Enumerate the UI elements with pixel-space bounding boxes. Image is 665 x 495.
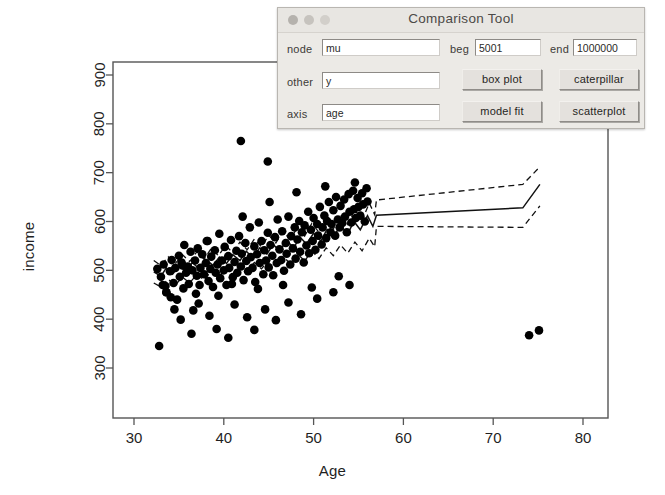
y-tick-label: 900 [91, 62, 108, 87]
model-fit-button[interactable]: model fit [462, 101, 542, 122]
y-tick-label: 300 [91, 355, 108, 380]
box-plot-button[interactable]: box plot [462, 69, 542, 90]
data-point [275, 245, 284, 254]
data-point [248, 264, 257, 273]
data-point [293, 235, 302, 244]
data-point [321, 182, 330, 191]
data-point [246, 223, 255, 232]
data-point [265, 198, 274, 207]
data-point [227, 236, 236, 245]
data-point [170, 305, 179, 314]
data-point [314, 231, 323, 240]
comparison-tool-window[interactable]: Comparison Tool node mu other y axis age… [277, 7, 645, 129]
data-point [349, 186, 358, 195]
data-point [351, 178, 360, 187]
data-point [184, 280, 193, 289]
data-point [167, 293, 176, 302]
data-point [264, 228, 273, 237]
data-point [299, 258, 308, 267]
data-point [271, 233, 280, 242]
data-point [157, 272, 166, 281]
data-point [525, 331, 534, 340]
data-point [193, 271, 202, 280]
data-point [214, 291, 223, 300]
data-point [228, 280, 237, 289]
data-point [216, 274, 225, 283]
data-point [209, 283, 218, 292]
data-point [178, 261, 187, 270]
data-point [535, 326, 544, 335]
window-title: Comparison Tool [278, 11, 644, 26]
data-point [167, 256, 176, 265]
data-point [224, 252, 233, 261]
data-point [169, 279, 178, 288]
data-point [189, 306, 198, 315]
data-point [296, 247, 305, 256]
data-point [268, 251, 277, 260]
data-point [343, 228, 352, 237]
y-axis-title: income [20, 197, 37, 297]
scatterplot-button[interactable]: scatterplot [559, 101, 639, 122]
data-point [360, 217, 369, 226]
data-point [239, 276, 248, 285]
data-point [255, 218, 264, 227]
data-point [191, 256, 200, 265]
data-point [243, 313, 252, 322]
data-point [194, 299, 203, 308]
data-point [235, 232, 244, 241]
data-point [250, 326, 259, 335]
x-axis-title: Age [0, 462, 665, 479]
caterpillar-button[interactable]: caterpillar [559, 69, 639, 90]
data-point [205, 311, 214, 320]
data-point [237, 249, 246, 258]
data-point [362, 184, 371, 193]
data-point [308, 283, 317, 292]
data-point [264, 157, 273, 166]
data-point [195, 281, 204, 290]
data-point [158, 281, 167, 290]
node-input[interactable]: mu [322, 39, 440, 56]
data-point [278, 227, 287, 236]
data-point [250, 242, 259, 251]
end-input[interactable]: 1000000 [573, 39, 637, 56]
node-label: node [287, 43, 312, 55]
data-point [264, 263, 273, 272]
data-point [281, 239, 290, 248]
data-point [198, 250, 207, 259]
data-point [280, 267, 289, 276]
data-point [211, 246, 220, 255]
data-point [257, 237, 266, 246]
window-titlebar[interactable]: Comparison Tool [278, 8, 644, 33]
other-input[interactable]: y [322, 72, 440, 89]
y-tick-label: 500 [91, 258, 108, 283]
data-point [279, 281, 288, 290]
y-tick-label: 600 [91, 209, 108, 234]
data-point [237, 137, 246, 146]
other-label: other [287, 76, 313, 88]
y-tick-label: 400 [91, 307, 108, 332]
axis-input[interactable]: age [322, 104, 440, 121]
data-point [269, 271, 278, 280]
data-point [176, 315, 185, 324]
data-point [212, 325, 221, 334]
data-point [203, 237, 212, 246]
data-point [187, 330, 196, 339]
data-point [159, 260, 168, 269]
data-point [284, 212, 293, 221]
data-point [292, 188, 301, 197]
data-point [254, 285, 263, 294]
beg-input[interactable]: 5001 [475, 39, 541, 56]
y-tick-label: 700 [91, 160, 108, 185]
data-point [230, 300, 239, 309]
data-point [334, 272, 343, 281]
axis-label: axis [287, 108, 307, 120]
data-point [363, 197, 372, 206]
data-point [215, 229, 224, 238]
data-point [220, 243, 229, 252]
data-point [241, 239, 250, 248]
data-point [325, 198, 334, 207]
data-point [332, 193, 341, 202]
data-point [313, 294, 322, 303]
data-point [155, 342, 164, 351]
data-point [329, 288, 338, 297]
